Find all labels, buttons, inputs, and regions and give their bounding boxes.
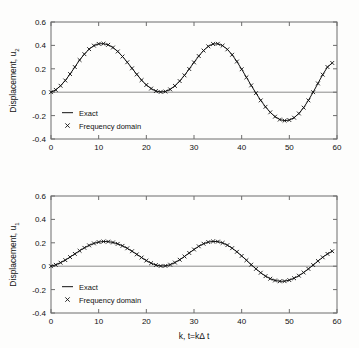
x-tick-label: 60	[333, 317, 342, 326]
legend-label-frequency-domain: Frequency domain	[79, 296, 141, 305]
figure-canvas: 0102030405060-0.4-0.200.20.40.6Displacem…	[0, 0, 359, 348]
y-axis-title: Displacement, u2	[8, 48, 20, 113]
y-tick-label: 0.4	[35, 215, 47, 224]
y-tick-label: -0.2	[32, 112, 46, 121]
legend: ExactFrequency domain	[62, 283, 141, 305]
legend-label-exact: Exact	[79, 109, 99, 118]
y-axis-title: Displacement, u1	[8, 222, 20, 287]
x-tick-label: 60	[333, 143, 342, 152]
y-tick-label: -0.2	[32, 286, 46, 295]
x-tick-label: 0	[49, 143, 54, 152]
x-tick-label: 10	[94, 317, 103, 326]
y-tick-label: 0.6	[35, 18, 47, 27]
chart-panel-u2: 0102030405060-0.4-0.200.20.40.6Displacem…	[0, 0, 359, 174]
x-tick-label: 50	[285, 317, 294, 326]
x-tick-label: 0	[49, 317, 54, 326]
x-tick-label: 30	[190, 143, 199, 152]
y-tick-label: -0.4	[32, 309, 46, 318]
y-tick-label: 0	[42, 88, 47, 97]
legend: ExactFrequency domain	[62, 109, 141, 131]
x-tick-label: 20	[142, 317, 151, 326]
series-markers-frequency-domain	[49, 240, 334, 284]
x-tick-label: 30	[190, 317, 199, 326]
x-tick-label: 40	[237, 317, 246, 326]
y-tick-label: 0	[42, 262, 47, 271]
y-tick-label: -0.4	[32, 135, 46, 144]
x-tick-label: 20	[142, 143, 151, 152]
series-line-exact	[51, 241, 332, 281]
plot-area-u2: 0102030405060-0.4-0.200.20.40.6Displacem…	[0, 0, 359, 174]
y-tick-label: 0.2	[35, 65, 47, 74]
x-axis-title: k, t=kΔ t	[179, 331, 210, 341]
x-tick-label: 40	[237, 143, 246, 152]
y-tick-label: 0.4	[35, 41, 47, 50]
svg-text:Displacement, u2: Displacement, u2	[8, 48, 20, 113]
chart-panel-u1: 0102030405060-0.4-0.200.20.40.6Displacem…	[0, 174, 359, 348]
y-tick-label: 0.2	[35, 239, 47, 248]
legend-label-frequency-domain: Frequency domain	[79, 122, 141, 131]
svg-text:Displacement, u1: Displacement, u1	[8, 222, 20, 287]
legend-label-exact: Exact	[79, 283, 99, 292]
x-tick-label: 50	[285, 143, 294, 152]
plot-area-u1: 0102030405060-0.4-0.200.20.40.6Displacem…	[0, 174, 359, 348]
y-tick-label: 0.6	[35, 192, 47, 201]
x-tick-label: 10	[94, 143, 103, 152]
